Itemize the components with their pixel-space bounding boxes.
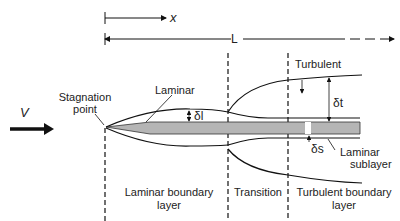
- turbulent-label: Turbulent: [295, 58, 341, 70]
- x-axis-arrow: [105, 12, 166, 24]
- transition-upper: [228, 112, 360, 118]
- sublayer-leader: [328, 139, 335, 150]
- laminar-bl-region-line2: layer: [110, 199, 228, 211]
- x-label: x: [170, 12, 177, 24]
- length-L-dimension: [105, 33, 394, 45]
- L-label: L: [231, 33, 238, 45]
- boundary-layer-diagram: x L V Stagnation point Laminar Turbulent…: [0, 0, 400, 221]
- stagnation-label-line1: Stagnation: [55, 91, 115, 103]
- velocity-label: V: [20, 107, 29, 119]
- delta-t-label: δt: [333, 97, 343, 109]
- transition-lower: [228, 138, 360, 145]
- laminar-bl-region-line1: Laminar boundary: [110, 186, 228, 198]
- stagnation-leader: [95, 114, 104, 125]
- sublayer-label-line2: sublayer: [350, 158, 392, 170]
- sublayer-label-line1: Laminar: [340, 146, 380, 158]
- delta-l-label: δl: [194, 110, 203, 122]
- transition-region: Transition: [228, 186, 288, 198]
- laminar-leader: [146, 95, 172, 122]
- sublayer-gap: [305, 122, 311, 134]
- delta-s-label: δs: [311, 143, 324, 155]
- flat-plate: [106, 122, 360, 134]
- turbulent-bl-region-line1: Turbulent boundary: [290, 186, 398, 198]
- stagnation-label-line2: point: [55, 103, 115, 115]
- laminar-label: Laminar: [155, 84, 195, 96]
- turbulent-bl-region-line2: layer: [290, 199, 398, 211]
- velocity-arrow: [10, 123, 54, 135]
